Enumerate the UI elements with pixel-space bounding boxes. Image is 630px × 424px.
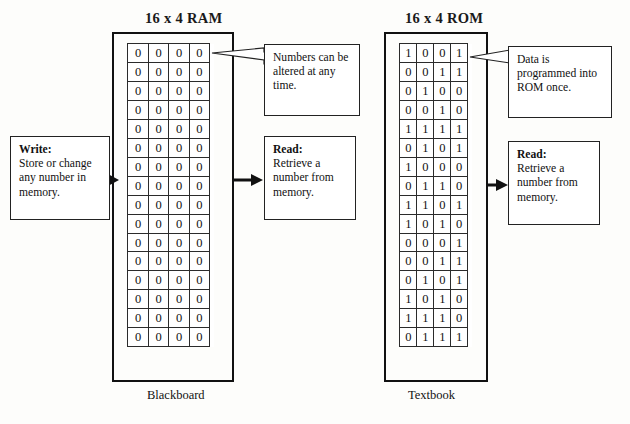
memory-cell: 1 <box>450 327 468 347</box>
memory-cell: 0 <box>189 251 211 271</box>
memory-cell: 0 <box>168 195 190 215</box>
memory-cell: 0 <box>399 138 417 158</box>
memory-cell: 0 <box>148 81 170 101</box>
memory-cell: 1 <box>399 289 417 309</box>
memory-cell: 0 <box>127 233 149 253</box>
memory-cell: 1 <box>399 214 417 234</box>
memory-row: 0100 <box>400 82 472 101</box>
memory-cell: 0 <box>148 157 170 177</box>
memory-cell: 0 <box>127 100 149 120</box>
memory-cell: 0 <box>433 233 451 253</box>
memory-cell: 0 <box>148 43 170 63</box>
memory-cell: 0 <box>127 119 149 139</box>
note-read-rom-body: Retrieve a number from memory. <box>517 162 578 203</box>
memory-cell: 0 <box>450 100 468 120</box>
memory-cell: 0 <box>189 308 211 328</box>
memory-row: 0000 <box>128 252 214 271</box>
memory-cell: 0 <box>416 100 434 120</box>
memory-cell: 0 <box>127 43 149 63</box>
memory-cell: 0 <box>127 214 149 234</box>
memory-row: 0000 <box>128 139 214 158</box>
memory-cell: 1 <box>433 251 451 271</box>
memory-cell: 0 <box>127 270 149 290</box>
memory-cell: 1 <box>433 289 451 309</box>
diagram-canvas: 16 x 4 RAM 16 x 4 ROM 000000000000000000… <box>0 0 630 424</box>
ram-title: 16 x 4 RAM <box>145 10 223 27</box>
note-write: Write: Store or change any number in mem… <box>10 136 110 220</box>
memory-cell: 1 <box>399 157 417 177</box>
memory-cell: 1 <box>433 62 451 82</box>
memory-cell: 0 <box>168 289 190 309</box>
memory-cell: 1 <box>433 308 451 328</box>
memory-row: 0000 <box>128 101 214 120</box>
memory-cell: 1 <box>399 195 417 215</box>
memory-cell: 1 <box>416 81 434 101</box>
note-read-rom: Read: Retrieve a number from memory. <box>508 141 600 225</box>
memory-cell: 0 <box>148 308 170 328</box>
memory-cell: 0 <box>416 233 434 253</box>
memory-cell: 0 <box>168 43 190 63</box>
memory-cell: 1 <box>433 119 451 139</box>
memory-cell: 0 <box>450 289 468 309</box>
memory-row: 0000 <box>128 233 214 252</box>
memory-cell: 0 <box>127 157 149 177</box>
memory-cell: 0 <box>148 270 170 290</box>
memory-cell: 0 <box>450 308 468 328</box>
note-write-body: Store or change any number in memory. <box>19 157 92 198</box>
memory-cell: 0 <box>399 251 417 271</box>
memory-row: 0000 <box>128 290 214 309</box>
memory-row: 0000 <box>128 44 214 63</box>
memory-cell: 0 <box>127 176 149 196</box>
memory-cell: 0 <box>433 138 451 158</box>
memory-row: 0000 <box>128 195 214 214</box>
memory-row: 0000 <box>128 82 214 101</box>
memory-cell: 1 <box>416 308 434 328</box>
memory-cell: 0 <box>168 251 190 271</box>
memory-cell: 0 <box>416 157 434 177</box>
memory-cell: 1 <box>450 270 468 290</box>
memory-cell: 0 <box>189 195 211 215</box>
memory-cell: 1 <box>450 43 468 63</box>
memory-row: 1001 <box>400 44 472 63</box>
memory-cell: 0 <box>189 43 211 63</box>
memory-cell: 0 <box>168 327 190 347</box>
memory-cell: 0 <box>450 81 468 101</box>
memory-cell: 0 <box>416 251 434 271</box>
memory-cell: 0 <box>433 81 451 101</box>
memory-cell: 0 <box>189 119 211 139</box>
note-read-rom-lead: Read: <box>517 148 592 162</box>
memory-row: 0000 <box>128 157 214 176</box>
memory-cell: 0 <box>168 270 190 290</box>
note-read-ram: Read: Retrieve a number from memory. <box>264 136 356 220</box>
memory-cell: 1 <box>399 308 417 328</box>
memory-cell: 1 <box>450 251 468 271</box>
memory-cell: 0 <box>189 62 211 82</box>
memory-cell: 0 <box>399 270 417 290</box>
memory-row: 0000 <box>128 271 214 290</box>
memory-cell: 0 <box>127 138 149 158</box>
note-data-programmed-body: Data is programmed into ROM once. <box>517 53 597 94</box>
memory-cell: 0 <box>148 195 170 215</box>
note-write-lead: Write: <box>19 143 102 157</box>
memory-cell: 1 <box>450 138 468 158</box>
memory-cell: 0 <box>189 289 211 309</box>
ram-caption: Blackboard <box>147 388 205 403</box>
memory-cell: 0 <box>168 176 190 196</box>
memory-cell: 0 <box>168 100 190 120</box>
rom-memory-grid: 1001001101000010111101011000011011011010… <box>400 44 472 347</box>
memory-cell: 1 <box>416 119 434 139</box>
memory-cell: 0 <box>450 157 468 177</box>
ram-memory-grid: 0000000000000000000000000000000000000000… <box>128 44 214 347</box>
memory-cell: 0 <box>189 100 211 120</box>
memory-cell: 1 <box>450 195 468 215</box>
memory-cell: 1 <box>433 176 451 196</box>
memory-row: 1010 <box>400 290 472 309</box>
memory-cell: 0 <box>127 327 149 347</box>
memory-cell: 0 <box>416 289 434 309</box>
memory-cell: 0 <box>148 138 170 158</box>
memory-cell: 0 <box>450 214 468 234</box>
memory-cell: 1 <box>416 195 434 215</box>
memory-cell: 0 <box>148 289 170 309</box>
memory-row: 1010 <box>400 214 472 233</box>
note-read-ram-body: Retrieve a number from memory. <box>273 157 334 198</box>
